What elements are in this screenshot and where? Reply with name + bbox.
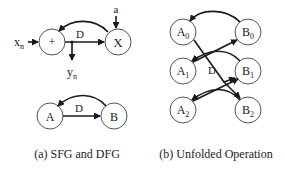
caption-b: (b) Unfolded Operation — [159, 147, 272, 161]
multiplier-label: X — [113, 35, 123, 50]
node-a-label: A — [46, 110, 55, 124]
caption-a: (a) SFG and DFG — [34, 147, 120, 161]
coeff-label: a — [114, 3, 119, 15]
delay-label: D — [76, 28, 84, 40]
b0-to-a0-edge — [190, 11, 240, 22]
diagram: xn + X D yn a A B D (a) SFG and DFG A0 B… — [0, 0, 287, 170]
sfg: xn + X D yn a — [14, 3, 131, 81]
dfg: A B D (a) SFG and DFG — [34, 96, 127, 162]
unfolded: A0 B0 A1 B1 A2 B2 D (b) Unfolded Operati… — [159, 11, 272, 161]
input-label: xn — [14, 35, 24, 51]
dfg-delay-label: D — [75, 102, 83, 114]
node-b-label: B — [110, 110, 118, 124]
unfolded-delay-label: D — [208, 64, 216, 76]
output-label: yn — [67, 65, 77, 81]
adder-label: + — [49, 35, 56, 49]
